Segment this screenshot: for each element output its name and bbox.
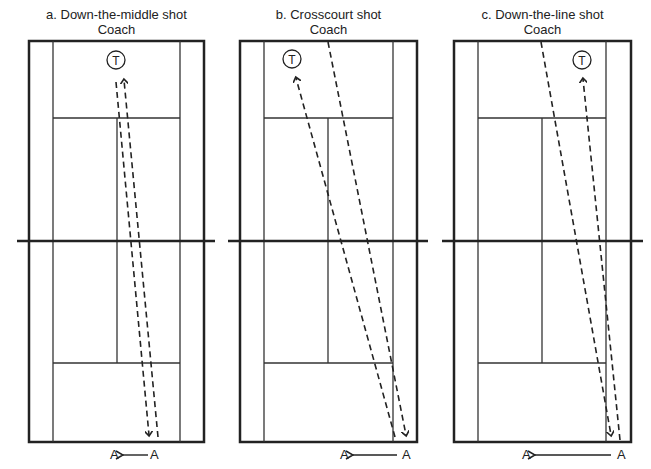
player-end-label: A [340, 448, 349, 462]
shot-path-to-target [583, 79, 620, 440]
player-start-label: A [402, 448, 411, 462]
target-label: T [112, 54, 120, 68]
tennis-diagram: TTT [0, 0, 651, 469]
shot-path-from-coach [116, 82, 149, 435]
court-panel-c: T [442, 41, 643, 455]
panel-title-b: b. Crosscourt shot [219, 8, 439, 22]
player-start-label: A [617, 448, 626, 462]
shot-path-to-target [124, 80, 158, 437]
shot-path-from-coach [328, 42, 406, 435]
coach-label: Coach [77, 23, 157, 37]
shot-path-from-coach [541, 42, 611, 435]
court-panel-a: T [17, 41, 215, 455]
player-start-label: A [150, 448, 159, 462]
target-label: T [578, 54, 586, 68]
court-panel-b: T [228, 41, 428, 455]
player-end-label: A [522, 448, 531, 462]
coach-label: Coach [503, 23, 583, 37]
panel-title-c: c. Down-the-line shot [433, 8, 651, 22]
target-label: T [288, 53, 296, 67]
coach-label: Coach [289, 23, 369, 37]
player-end-label: A [110, 448, 119, 462]
panel-title-a: a. Down-the-middle shot [7, 8, 227, 22]
